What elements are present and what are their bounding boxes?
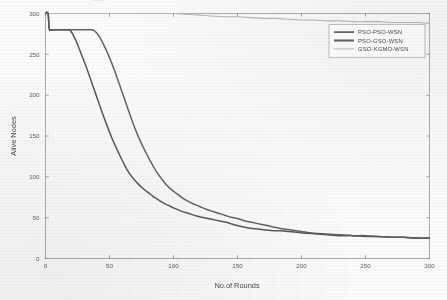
y-tick-label: 50 (33, 214, 40, 221)
x-tick-label: 100 (168, 262, 179, 269)
legend-label: PSO-PSO-WSN (358, 29, 402, 35)
legend-label: PSO-GSO-WSN (358, 38, 403, 44)
y-tick-label: 200 (29, 91, 40, 98)
y-tick-label: 150 (29, 132, 40, 139)
x-axis-title: No.of Rounds (214, 281, 259, 290)
figure-page: ...... 050100150200250300 05010015020025… (0, 0, 447, 300)
chart-canvas: 050100150200250300 050100150200250300 PS… (0, 0, 447, 300)
chart-legend: PSO-PSO-WSNPSO-GSO-WSNGSO-KGMO-WSN (329, 25, 425, 58)
x-tick-label: 150 (232, 262, 243, 269)
y-tick-label: 300 (29, 10, 40, 17)
legend-label: GSO-KGMO-WSN (358, 46, 409, 52)
y-tick-label: 100 (29, 173, 40, 180)
x-tick-label: 0 (44, 262, 48, 269)
y-axis-title: Alive Nodes (9, 116, 18, 156)
x-tick-label: 300 (424, 262, 435, 269)
x-tick-label: 50 (106, 262, 113, 269)
x-tick-label: 200 (296, 262, 307, 269)
line-chart: 050100150200250300 050100150200250300 PS… (0, 0, 447, 300)
x-tick-label: 250 (360, 262, 371, 269)
y-tick-label: 0 (36, 255, 40, 262)
y-tick-label: 250 (29, 51, 40, 58)
